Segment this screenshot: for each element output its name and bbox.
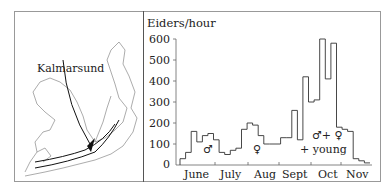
- month-label: Oct: [318, 168, 338, 181]
- month-label: June: [184, 168, 209, 181]
- month-label: Sept: [282, 168, 308, 181]
- mixed-symbol: ♂+ ♀: [312, 129, 343, 142]
- month-label: Aug: [254, 168, 276, 181]
- month-label: Nov: [346, 168, 368, 181]
- step-chart: [0, 0, 392, 195]
- month-label: July: [220, 168, 241, 181]
- female-symbol: ♀: [253, 143, 261, 156]
- male-symbol: ♂: [203, 143, 213, 156]
- young-label: + young: [300, 143, 347, 156]
